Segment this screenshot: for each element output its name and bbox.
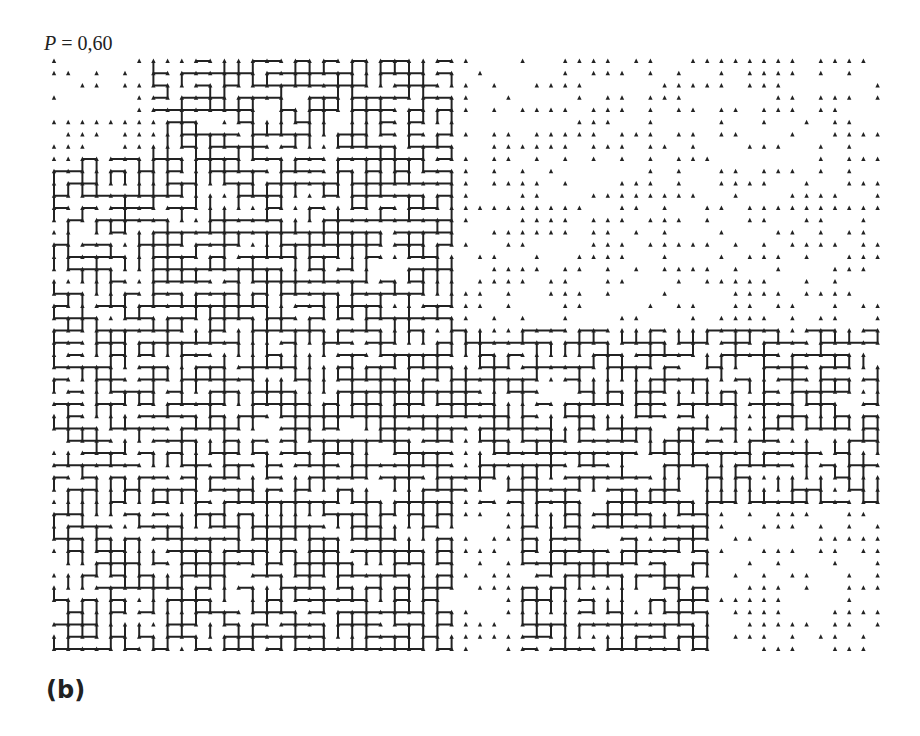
isolated-site [833, 634, 837, 639]
isolated-site [875, 536, 879, 541]
occupied-site [336, 634, 340, 639]
isolated-site [833, 132, 837, 137]
isolated-site [833, 316, 837, 321]
isolated-site [748, 254, 752, 259]
isolated-site [606, 193, 610, 198]
isolated-site [549, 107, 553, 112]
occupied-site [265, 377, 269, 382]
isolated-site [520, 316, 524, 321]
isolated-site [847, 524, 851, 529]
isolated-site [464, 181, 468, 186]
isolated-site [492, 548, 496, 553]
isolated-site [478, 548, 482, 553]
isolated-site [137, 83, 141, 88]
occupied-site [251, 426, 255, 431]
isolated-site [819, 144, 823, 149]
occupied-site [52, 267, 56, 272]
occupied-site [322, 487, 326, 492]
isolated-site [535, 230, 539, 235]
occupied-site [620, 377, 624, 382]
isolated-site [520, 267, 524, 272]
occupied-site [80, 585, 84, 590]
occupied-site [52, 524, 56, 529]
isolated-site [606, 144, 610, 149]
occupied-site [251, 340, 255, 345]
isolated-site [691, 58, 695, 63]
occupied-site [307, 340, 311, 345]
occupied-site [421, 340, 425, 345]
isolated-site [677, 71, 681, 76]
isolated-site [790, 524, 794, 529]
isolated-site [776, 71, 780, 76]
isolated-site [563, 230, 567, 235]
isolated-site [875, 524, 879, 529]
occupied-site [591, 487, 595, 492]
isolated-site [535, 144, 539, 149]
isolated-site [875, 205, 879, 210]
isolated-site [137, 144, 141, 149]
occupied-site [151, 58, 155, 63]
isolated-site [847, 291, 851, 296]
isolated-site [847, 646, 851, 651]
isolated-site [762, 169, 766, 174]
occupied-site [123, 622, 127, 627]
occupied-site [350, 120, 354, 125]
isolated-site [563, 58, 567, 63]
isolated-site [563, 267, 567, 272]
isolated-site [506, 291, 510, 296]
isolated-site [634, 205, 638, 210]
isolated-site [719, 58, 723, 63]
isolated-site [790, 205, 794, 210]
isolated-site [776, 58, 780, 63]
occupied-site [364, 487, 368, 492]
occupied-site [180, 499, 184, 504]
isolated-site [748, 83, 752, 88]
isolated-site [577, 291, 581, 296]
isolated-site [833, 58, 837, 63]
isolated-site [535, 218, 539, 223]
occupied-site [634, 585, 638, 590]
occupied-site [762, 414, 766, 419]
occupied-site [350, 254, 354, 259]
occupied-site [407, 536, 411, 541]
occupied-site [80, 279, 84, 284]
occupied-site [52, 487, 56, 492]
occupied-site [364, 267, 368, 272]
isolated-site [662, 230, 666, 235]
occupied-site [251, 597, 255, 602]
isolated-site [492, 279, 496, 284]
isolated-site [478, 254, 482, 259]
isolated-site [833, 95, 837, 100]
isolated-site [733, 58, 737, 63]
isolated-site [80, 120, 84, 125]
occupied-site [52, 585, 56, 590]
isolated-site [80, 132, 84, 137]
isolated-site [535, 193, 539, 198]
isolated-site [790, 646, 794, 651]
occupied-site [137, 267, 141, 272]
occupied-site [151, 181, 155, 186]
isolated-site [790, 512, 794, 517]
isolated-site [94, 83, 98, 88]
isolated-site [677, 267, 681, 272]
isolated-site [691, 132, 695, 137]
occupied-site [180, 218, 184, 223]
isolated-site [847, 181, 851, 186]
isolated-site [606, 107, 610, 112]
occupied-site [222, 352, 226, 357]
occupied-site [180, 83, 184, 88]
isolated-site [691, 193, 695, 198]
isolated-site [804, 254, 808, 259]
isolated-site [677, 218, 681, 223]
isolated-site [606, 71, 610, 76]
isolated-site [776, 230, 780, 235]
isolated-site [875, 610, 879, 615]
isolated-site [762, 181, 766, 186]
isolated-site [748, 610, 752, 615]
isolated-site [506, 512, 510, 517]
occupied-site [549, 610, 553, 615]
occupied-site [464, 365, 468, 370]
isolated-site [776, 610, 780, 615]
occupied-site [549, 352, 553, 357]
isolated-site [833, 267, 837, 272]
